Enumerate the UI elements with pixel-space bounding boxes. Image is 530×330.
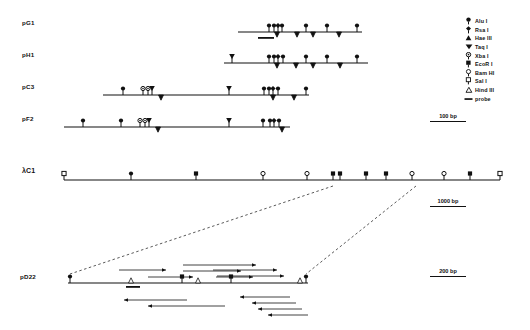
sal-glyph <box>62 171 66 175</box>
ecor-glyph <box>468 171 472 175</box>
site-marker-alu <box>267 54 271 63</box>
scalebar-100bp-label: 100 bp <box>430 113 466 119</box>
site-marker-alu <box>276 86 280 95</box>
hind-glyph <box>298 278 303 283</box>
sal-glyph <box>498 171 502 175</box>
ecor-glyph <box>180 274 184 278</box>
ecor-glyph <box>331 171 335 175</box>
alu-glyph <box>280 23 284 27</box>
alu-glyph <box>325 23 329 27</box>
legend-label-ecor-i: EcoR I <box>475 61 493 67</box>
site-marker-rsa <box>275 54 280 63</box>
alu-glyph <box>119 118 123 122</box>
hind-glyph <box>129 278 134 283</box>
arrow-head <box>273 268 277 271</box>
site-marker-taq <box>146 118 152 127</box>
legend-item-xba-i: Xba I <box>462 51 528 60</box>
site-marker-alu <box>267 86 271 95</box>
arrow-head <box>240 295 244 298</box>
row-label-pd22: pD22 <box>20 273 36 280</box>
site-marker-rsa <box>275 23 280 32</box>
site-marker-alu <box>262 86 266 95</box>
bam-glyph <box>442 171 446 175</box>
arrow-head <box>162 268 166 271</box>
site-marker-xba <box>141 86 145 95</box>
site-marker-hae <box>280 127 285 132</box>
sequencing-arrows <box>119 263 308 316</box>
ecor-glyph <box>194 171 198 175</box>
hae-glyph <box>275 63 280 68</box>
site-marker-xba <box>146 86 150 95</box>
scalebar-1000bp-label: 1000 bp <box>430 198 466 204</box>
sal-i-icon <box>462 77 475 86</box>
site-marker-alu <box>81 118 85 127</box>
rsa-glyph <box>275 54 280 59</box>
site-marker-alu <box>304 54 308 63</box>
site-marker-hae <box>295 32 300 37</box>
hae-glyph <box>275 32 280 37</box>
legend-item-taq-i: Taq I <box>462 43 528 52</box>
xba-dot <box>147 88 149 90</box>
xba-i-icon <box>462 51 475 60</box>
hind-glyph <box>196 278 201 283</box>
legend-item-bam-hi: Bam HI <box>462 69 528 78</box>
legend-label-rsa-i: Rsa I <box>475 27 489 33</box>
site-marker-hae <box>156 127 161 132</box>
legend-label-xba-i: Xba I <box>475 53 489 59</box>
legend-item-probe: probe <box>462 94 528 103</box>
site-marker-hae <box>337 32 342 37</box>
alu-glyph <box>277 118 281 122</box>
ecor-glyph <box>338 171 342 175</box>
row-pd22 <box>68 274 308 287</box>
bam-glyph <box>305 171 309 175</box>
arrow-head <box>148 304 152 307</box>
hind-iii-icon <box>462 86 475 95</box>
site-marker-alu <box>119 118 123 127</box>
site-marker-sal <box>62 171 66 180</box>
legend-label-bam-hi: Bam HI <box>475 70 494 76</box>
alu-glyph <box>325 54 329 58</box>
site-marker-alu <box>272 23 276 32</box>
site-marker-bam <box>305 171 309 180</box>
alu-glyph <box>304 274 308 278</box>
site-marker-hae <box>275 32 280 37</box>
hae-iii-icon <box>462 34 475 43</box>
site-marker-alu <box>277 118 281 127</box>
site-marker-xba <box>143 118 147 127</box>
scalebar-200bp-line <box>430 276 466 277</box>
row-label-pf2: pF2 <box>22 115 34 122</box>
site-marker-alu <box>304 274 308 283</box>
site-marker-hind <box>196 278 201 283</box>
alu-glyph <box>304 54 308 58</box>
alu-glyph <box>304 86 308 90</box>
alu-glyph <box>267 54 271 58</box>
probe-icon <box>462 94 475 103</box>
legend-item-alu-i: Alu I <box>462 17 528 26</box>
legend-item-hind-iii: Hind III <box>462 86 528 95</box>
alu-glyph <box>355 54 359 58</box>
site-marker-alu <box>272 54 276 63</box>
alu-glyph <box>129 171 133 175</box>
alu-glyph <box>355 23 359 27</box>
site-marker-hind <box>129 278 134 283</box>
ecor-glyph <box>364 171 368 175</box>
bam-glyph <box>261 171 265 175</box>
expansion-line-right <box>306 186 416 274</box>
restriction-map-figure: pG1 pH1 pC3 pF2 λC1 pD22 Alu I Rsa I Hae… <box>0 0 530 330</box>
alu-glyph <box>267 23 271 27</box>
sequencing-arrow <box>183 263 256 266</box>
scalebar-200bp: 200 bp <box>430 268 466 277</box>
rsa-glyph <box>271 118 276 123</box>
scalebar-1000bp: 1000 bp <box>430 198 466 207</box>
alu-glyph <box>68 274 72 278</box>
ecor-glyph <box>384 171 388 175</box>
taq-i-icon <box>462 43 475 52</box>
site-marker-hae <box>159 95 164 100</box>
site-marker-ecor <box>338 171 342 180</box>
alu-glyph <box>121 86 125 90</box>
site-marker-hae <box>292 95 297 100</box>
sequencing-arrow <box>148 275 193 278</box>
site-marker-alu <box>304 86 308 95</box>
site-marker-hae <box>275 63 280 68</box>
row-pc3 <box>103 86 309 100</box>
